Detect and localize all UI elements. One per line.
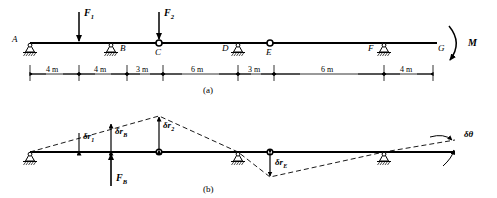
drB-label: δrB [115, 127, 127, 138]
dimension-label-1: 4 m [46, 66, 58, 74]
subfigure-label-b: (b) [203, 185, 214, 194]
dr1-symbol: δr [83, 131, 91, 141]
dimension-label-6: 6 m [321, 66, 333, 74]
dtheta-label: δθ [464, 130, 473, 139]
dr2-symbol: δr [163, 120, 171, 130]
dimension-label-5: 3 m [248, 66, 260, 74]
load-f2-symbol: F [164, 7, 171, 18]
support-d-b [231, 152, 245, 165]
load-label-f2: F2 [164, 8, 174, 21]
dr2-subscript: 2 [171, 126, 174, 132]
point-label-a: A [12, 35, 18, 44]
dr2-label: δr2 [163, 121, 174, 132]
point-label-f: F [368, 44, 374, 53]
dimension-label-4: 6 m [191, 66, 203, 74]
support-f-b [377, 152, 391, 165]
hinge-e [267, 40, 273, 46]
figure-canvas: A B C D E F G F1 F2 M 4 m 4 m 3 m 6 m 3 … [0, 0, 497, 198]
support-a [23, 43, 37, 56]
point-label-c: C [155, 48, 161, 57]
diagram-a-group [23, 12, 456, 81]
dimension-label-3: 3 m [136, 66, 148, 74]
support-d [231, 43, 245, 56]
force-fb-label: FB [116, 173, 127, 186]
dr1-label: δr1 [83, 132, 94, 143]
load-f1-subscript: 1 [91, 13, 94, 20]
hinge-c-b [156, 149, 162, 155]
hinge-c [156, 40, 162, 46]
point-label-g: G [438, 44, 445, 53]
support-f [377, 43, 391, 56]
support-a-b [23, 152, 37, 165]
fb-subscript: B [123, 178, 127, 185]
point-label-e: E [266, 48, 272, 57]
drE-symbol: δr [275, 157, 283, 167]
drB-subscript: B [123, 132, 127, 138]
point-label-b: B [120, 44, 126, 53]
dimension-label-7: 4 m [400, 66, 412, 74]
fb-symbol: F [116, 172, 123, 183]
virtual-displacement-path [30, 116, 455, 177]
moment-label-m: M [468, 38, 477, 48]
load-f2-subscript: 2 [171, 13, 174, 20]
moment-m-arrow [449, 26, 456, 60]
point-label-d: D [222, 44, 229, 53]
dimension-label-2: 4 m [94, 66, 106, 74]
drE-label: δrE [275, 158, 287, 169]
drB-symbol: δr [115, 126, 123, 136]
dtheta-arrows [430, 136, 454, 166]
statics-figure-svg [0, 0, 497, 198]
dr1-subscript: 1 [91, 137, 94, 143]
load-label-f1: F1 [84, 8, 94, 21]
subfigure-label-a: (a) [203, 86, 213, 95]
diagram-b-group [23, 116, 455, 186]
dimension-line-a [30, 65, 433, 81]
drE-subscript: E [283, 163, 287, 169]
support-b [104, 43, 118, 56]
load-f1-symbol: F [84, 7, 91, 18]
